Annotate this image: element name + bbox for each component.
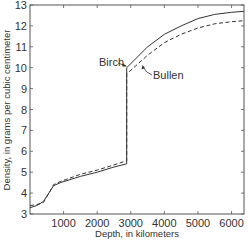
birch-label: Birch xyxy=(99,56,124,68)
bullen-label: Bullen xyxy=(153,69,184,81)
series-layer xyxy=(30,11,244,207)
y-tick-label: 11 xyxy=(16,41,27,53)
x-tick-label: 1000 xyxy=(51,217,75,229)
y-tick-label: 4 xyxy=(21,187,27,199)
birch-line xyxy=(30,11,244,207)
bullen-line xyxy=(30,21,244,206)
y-tick-label: 10 xyxy=(15,62,27,74)
y-tick-label: 7 xyxy=(21,124,27,136)
plot-border xyxy=(30,5,244,214)
y-tick-label: 9 xyxy=(21,83,27,95)
x-axis-title: Depth, in kilometers xyxy=(95,228,179,239)
density-depth-chart: 345678910111213 100020003000400050006000… xyxy=(0,0,248,241)
y-tick-label: 12 xyxy=(15,20,27,32)
y-tick-label: 6 xyxy=(21,145,27,157)
y-tick-label: 3 xyxy=(21,208,27,220)
birch-annotation: Birch xyxy=(99,56,127,68)
birch-arrowhead-icon xyxy=(123,64,128,67)
bullen-annotation: Bullen xyxy=(142,65,184,81)
y-tick-label: 13 xyxy=(15,0,27,11)
x-tick-label: 5000 xyxy=(186,217,210,229)
y-tick-label: 5 xyxy=(21,166,27,178)
y-axis-title: Density, in grams per cubic centimeter xyxy=(1,30,12,191)
x-tick-label: 6000 xyxy=(219,217,243,229)
y-axis: 345678910111213 xyxy=(15,0,244,220)
x-axis: 100020003000400050006000 xyxy=(51,5,243,229)
plot-frame xyxy=(30,5,244,214)
y-tick-label: 8 xyxy=(21,104,27,116)
